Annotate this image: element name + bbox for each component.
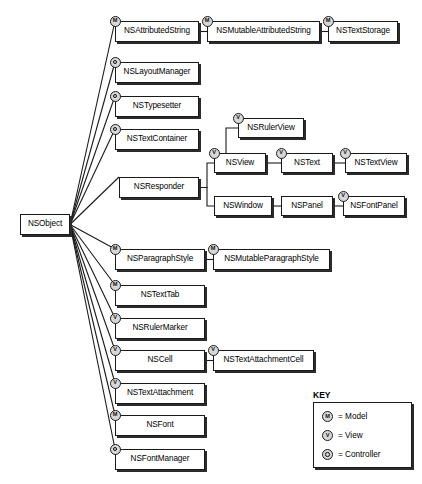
class-node-label: NSFont (143, 421, 176, 429)
stereotype-badge-controller-icon: C (110, 57, 121, 68)
edge-nsresponder-to-nsview (199, 163, 214, 188)
class-node-label: NSTextAttachment (124, 389, 196, 397)
stereotype-badge-controller-icon: C (110, 124, 121, 135)
class-node-nslayoutmanager[interactable]: NSLayoutManager (115, 62, 199, 83)
stereotype-glyph: M (211, 246, 216, 252)
edge-nsobject-to-nsresponder (70, 177, 119, 225)
class-node-label: NSText (291, 159, 323, 167)
key-badge-view-icon: V (322, 430, 333, 441)
key-row-controller: C= Controller (322, 449, 381, 460)
stereotype-glyph: V (113, 347, 117, 353)
stereotype-glyph: V (236, 115, 240, 121)
class-node-nstext[interactable]: NSText (281, 153, 333, 173)
class-node-nsfontmanager[interactable]: NSFontManager (115, 449, 205, 470)
stereotype-badge-view-icon: V (233, 113, 244, 124)
class-node-nsresponder[interactable]: NSResponder (119, 177, 199, 198)
class-node-nspanel[interactable]: NSPanel (281, 196, 333, 216)
class-node-label: NSTextTab (138, 291, 183, 299)
class-node-nstextcontainer[interactable]: NSTextContainer (115, 129, 199, 150)
class-node-label: NSObject (25, 220, 65, 228)
class-node-nscell[interactable]: NSCell (115, 350, 205, 371)
edge-nsobject-to-nsparagraphstyle (70, 225, 115, 250)
stereotype-badge-model-icon: M (110, 244, 121, 255)
stereotype-glyph: V (341, 193, 345, 199)
class-node-label: NSRulerView (244, 124, 297, 132)
class-node-nsrulerview[interactable]: NSRulerView (238, 118, 304, 138)
class-node-label: NSMutableParagraphStyle (221, 255, 322, 263)
key-label: = Model (338, 412, 367, 421)
class-node-label: NSFontPanel (347, 202, 401, 210)
stereotype-badge-model-icon: M (110, 16, 121, 27)
stereotype-badge-view-icon: V (209, 148, 220, 159)
stereotype-glyph: M (326, 18, 331, 24)
class-node-nsrulermarker[interactable]: NSRulerMarker (115, 318, 205, 339)
key-badge-model-icon: M (322, 411, 333, 422)
stereotype-glyph: V (212, 150, 216, 156)
class-node-nsfontpanel[interactable]: NSFontPanel (343, 196, 405, 216)
class-node-label: NSMutableAttributedString (213, 27, 313, 35)
stereotype-badge-model-icon: M (110, 280, 121, 291)
class-node-label: NSResponder (131, 183, 187, 191)
key-label: = Controller (338, 450, 381, 459)
stereotype-badge-model-icon: M (202, 16, 213, 27)
class-node-nstextattachment[interactable]: NSTextAttachment (115, 383, 205, 404)
stereotype-glyph: V (113, 315, 117, 321)
class-node-nsparagraphstyle[interactable]: NSParagraphStyle (115, 249, 205, 270)
class-node-label: NSParagraphStyle (124, 255, 196, 263)
stereotype-badge-view-icon: V (110, 345, 121, 356)
class-node-label: NSRulerMarker (129, 324, 190, 332)
class-node-label: NSAttributedString (121, 27, 193, 35)
key-row-view: V= View (322, 430, 363, 441)
class-node-label: NSTypesetter (130, 102, 184, 110)
stereotype-badge-model-icon: M (208, 244, 219, 255)
class-node-nsmutableattributedstring[interactable]: NSMutableAttributedString (207, 21, 320, 42)
class-node-label: NSTextContainer (124, 135, 190, 143)
stereotype-glyph: V (113, 380, 117, 386)
class-node-nstextattachmentcell[interactable]: NSTextAttachmentCell (213, 350, 314, 371)
class-node-label: NSLayoutManager (121, 68, 194, 76)
key-badge-controller-icon: C (322, 449, 333, 460)
class-node-nsmutableparagraphstyle[interactable]: NSMutableParagraphStyle (213, 249, 330, 270)
class-node-nstexttab[interactable]: NSTextTab (115, 285, 205, 306)
class-node-nswindow[interactable]: NSWindow (214, 196, 272, 216)
class-node-nstextstorage[interactable]: NSTextStorage (328, 21, 398, 42)
stereotype-badge-view-icon: V (208, 345, 219, 356)
stereotype-badge-view-icon: V (340, 148, 351, 159)
key-title: KEY (313, 390, 330, 400)
class-hierarchy-diagram: NSObjectNSAttributedStringMNSMutableAttr… (0, 0, 422, 484)
class-node-nstypesetter[interactable]: NSTypesetter (115, 96, 199, 117)
class-node-label: NSCell (145, 356, 176, 364)
class-node-label: NSTextView (352, 159, 401, 167)
stereotype-glyph: V (279, 150, 283, 156)
key-label: = View (338, 431, 363, 440)
stereotype-badge-view-icon: V (110, 313, 121, 324)
class-node-nsfont[interactable]: NSFont (115, 415, 205, 436)
stereotype-glyph: M (113, 412, 118, 418)
class-node-nstextview[interactable]: NSTextView (345, 153, 407, 173)
stereotype-glyph: M (113, 282, 118, 288)
class-node-label: NSView (223, 159, 257, 167)
edge-nsresponder-to-nswindow (199, 188, 214, 207)
class-node-label: NSFontManager (128, 455, 193, 463)
stereotype-glyph: M (205, 18, 210, 24)
stereotype-badge-model-icon: M (323, 16, 334, 27)
class-node-label: NSWindow (220, 202, 266, 210)
class-node-nsobject[interactable]: NSObject (20, 214, 70, 235)
stereotype-badge-view-icon: V (338, 191, 349, 202)
edge-nsobject-to-nsattributedstring (70, 21, 115, 225)
stereotype-badge-controller-icon: C (110, 444, 121, 455)
class-node-label: NSTextStorage (333, 27, 393, 35)
class-node-nsview[interactable]: NSView (214, 153, 266, 173)
stereotype-badge-model-icon: M (110, 410, 121, 421)
class-node-nsattributedstring[interactable]: NSAttributedString (115, 21, 199, 42)
stereotype-badge-controller-icon: C (110, 91, 121, 102)
stereotype-glyph: V (343, 150, 347, 156)
key-badge-glyph: V (326, 433, 330, 439)
edge-nsobject-to-nscell (70, 225, 115, 351)
stereotype-glyph: M (113, 246, 118, 252)
edge-nsobject-to-nsfont (70, 225, 115, 416)
key-row-model: M= Model (322, 411, 367, 422)
stereotype-glyph: V (211, 347, 215, 353)
key-badge-glyph: M (325, 414, 330, 420)
stereotype-glyph: M (113, 18, 118, 24)
